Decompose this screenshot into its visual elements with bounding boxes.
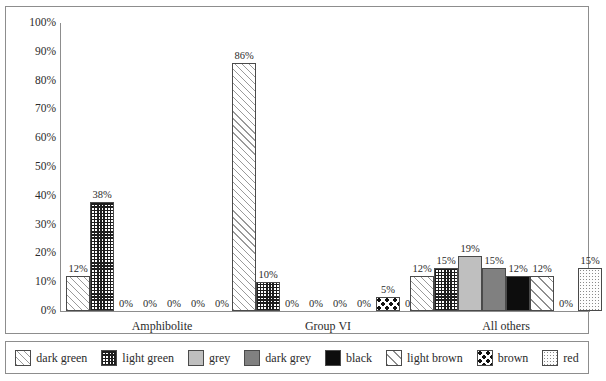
y-axis-tick-label: 70% (10, 103, 56, 115)
bar-darkgreen[interactable] (66, 276, 90, 311)
legend-item-lightgreen[interactable]: light green (94, 350, 181, 366)
legend-label: black (346, 351, 372, 365)
y-axis-tick-label: 90% (10, 46, 56, 58)
bar-lightgreen[interactable] (434, 268, 458, 311)
y-axis-tick-label: 80% (10, 75, 56, 87)
bar-value-label: 86% (224, 50, 264, 61)
legend-label: dark grey (265, 351, 311, 365)
bar-group: 12%15%19%15%12%12%0%15%All others (410, 23, 602, 311)
legend-item-black[interactable]: black (318, 350, 379, 366)
bar-value-label: 10% (248, 269, 288, 280)
legend-item-grey[interactable]: grey (181, 350, 237, 366)
legend-swatch-lightbrown-icon (386, 350, 402, 366)
legend-label: light brown (407, 351, 463, 365)
legend-swatch-darkgreen-icon (15, 350, 31, 366)
legend-label: brown (498, 351, 529, 365)
plot-area: 12%38%0%0%0%0%0%0%Amphibolite86%10%0%0%0… (60, 23, 584, 311)
bar-value-label: 38% (82, 189, 122, 200)
x-axis-category-label: Amphibolite (66, 319, 258, 333)
y-axis-tick-label: 0% (10, 305, 56, 317)
legend-item-darkgrey[interactable]: dark grey (237, 350, 318, 366)
bar-value-label: 15% (570, 255, 606, 266)
x-axis-line (60, 311, 590, 312)
y-axis-tick-label: 10% (10, 276, 56, 288)
legend-swatch-brown-icon (477, 350, 493, 366)
legend-swatch-red-icon (542, 350, 558, 366)
y-axis-tick-label: 100% (10, 17, 56, 29)
y-axis-tick-label: 30% (10, 219, 56, 231)
x-axis-category-label: All others (410, 319, 602, 333)
legend-item-lightbrown[interactable]: light brown (379, 350, 470, 366)
legend-item-brown[interactable]: brown (470, 350, 536, 366)
bar-black[interactable] (506, 276, 530, 311)
chart-legend: dark greenlight greengreydark greyblackl… (5, 341, 589, 374)
legend-label: dark green (36, 351, 87, 365)
y-axis-tick-labels: 0%10%20%30%40%50%60%70%80%90%100% (6, 7, 56, 335)
legend-label: light green (122, 351, 174, 365)
bar-darkgreen[interactable] (410, 276, 434, 311)
legend-swatch-darkgrey-icon (244, 350, 260, 366)
legend-item-red[interactable]: red (535, 350, 585, 366)
x-axis-category-label: Group VI (232, 319, 424, 333)
y-axis-tick-label: 40% (10, 190, 56, 202)
chart-plot-frame: 0%10%20%30%40%50%60%70%80%90%100% 12%38%… (5, 6, 589, 334)
legend-swatch-lightgreen-icon (101, 350, 117, 366)
bar-group: 12%38%0%0%0%0%0%0%Amphibolite (66, 23, 258, 311)
y-axis-tick-label: 50% (10, 161, 56, 173)
legend-swatch-grey-icon (188, 350, 204, 366)
bar-lightgreen[interactable] (90, 202, 114, 311)
bar-red[interactable] (578, 268, 602, 311)
y-axis-tick-label: 60% (10, 132, 56, 144)
legend-swatch-black-icon (325, 350, 341, 366)
legend-label: red (563, 351, 578, 365)
bar-value-label: 12% (522, 263, 562, 274)
bar-group: 86%10%0%0%0%0%5%0%Group VI (232, 23, 424, 311)
bar-value-label: 19% (450, 243, 490, 254)
y-axis-tick-label: 20% (10, 247, 56, 259)
legend-label: grey (209, 351, 230, 365)
bar-value-label: 5% (368, 284, 408, 295)
legend-item-darkgreen[interactable]: dark green (8, 350, 94, 366)
